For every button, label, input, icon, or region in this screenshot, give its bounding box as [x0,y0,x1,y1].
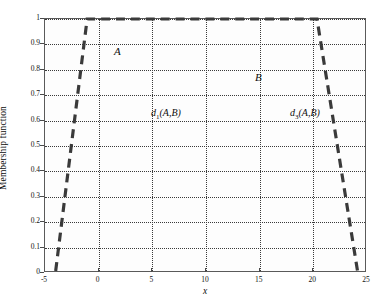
y-axis-title: Membership function [0,88,8,208]
annotation-A: A [114,45,121,57]
y-tick-label: 0 [36,268,40,276]
x-tick-label: 20 [297,276,327,284]
y-tick-label: 0.7 [31,90,40,98]
x-tick-label: 15 [244,276,274,284]
chart-figure: A B d1(A,B) d3(A,B) 00.10.20.30.40.50.60… [0,0,384,306]
annotation-d1: d1(A,B) [151,107,181,121]
y-tick-label: 0.2 [31,217,40,225]
x-tick-label: 5 [136,276,166,284]
y-tick-mark [40,272,44,273]
membership-curve-path [56,19,358,271]
x-tick-label: 0 [83,276,113,284]
y-tick-label: 0.9 [31,39,40,47]
y-tick-label: 0.1 [31,243,40,251]
x-tick-label: 25 [351,276,381,284]
y-tick-label: 0.4 [31,166,40,174]
y-tick-label: 0.6 [31,116,40,124]
annotation-d3: d3(A,B) [290,107,320,121]
plot-area: A B d1(A,B) d3(A,B) [44,18,366,272]
x-axis-title: x [44,286,366,296]
membership-curve [45,19,365,271]
annotation-d1-args: (A,B) [160,107,181,118]
y-tick-label: 0.5 [31,141,40,149]
y-tick-label: 0.3 [31,192,40,200]
annotation-d3-args: (A,B) [299,107,320,118]
annotation-B: B [255,71,262,83]
x-tick-label: -5 [29,276,59,284]
y-tick-label: 0.8 [31,65,40,73]
y-tick-label: 1 [36,14,40,22]
x-tick-label: 10 [190,276,220,284]
